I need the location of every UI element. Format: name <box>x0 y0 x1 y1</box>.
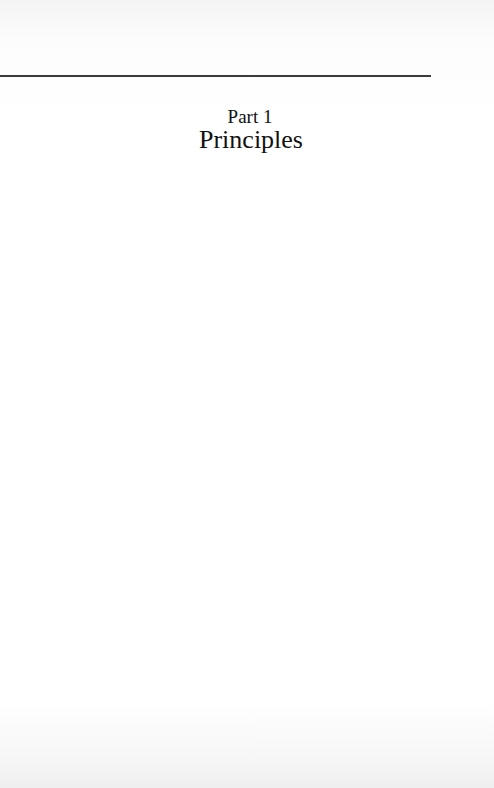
header-rule <box>0 75 431 77</box>
part-title: Principles <box>0 125 494 155</box>
book-page: Part 1 Principles <box>0 0 494 788</box>
